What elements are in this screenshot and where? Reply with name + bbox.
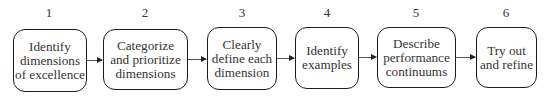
step-5-box: Describe performance continuums <box>377 27 456 88</box>
step-2-number: 2 <box>135 5 155 21</box>
arrow-3-to-4 <box>277 58 294 59</box>
step-1-number: 1 <box>39 5 59 21</box>
arrow-4-to-5 <box>359 57 376 58</box>
step-2-label: Categorize and prioritize dimensions <box>110 39 181 81</box>
step-6-box: Try out and refine <box>476 27 537 88</box>
step-5-number: 5 <box>406 5 426 21</box>
step-4-label: Identify examples <box>302 44 352 72</box>
arrow-2-to-3 <box>188 59 206 60</box>
step-3-label: Clearly define each dimension <box>212 38 272 80</box>
arrow-5-to-6 <box>456 57 475 58</box>
step-5-label: Describe performance continuums <box>383 37 450 79</box>
step-3-number: 3 <box>232 5 252 21</box>
arrow-1-to-2 <box>87 60 102 61</box>
step-1-label: Identify dimensions of excellence <box>15 40 85 82</box>
step-4-box: Identify examples <box>295 27 359 89</box>
step-4-number: 4 <box>317 5 337 21</box>
step-1-box: Identify dimensions of excellence <box>13 29 87 92</box>
step-3-box: Clearly define each dimension <box>207 27 277 90</box>
step-6-number: 6 <box>496 5 516 21</box>
step-2-box: Categorize and prioritize dimensions <box>103 29 188 90</box>
step-6-label: Try out and refine <box>480 44 533 72</box>
